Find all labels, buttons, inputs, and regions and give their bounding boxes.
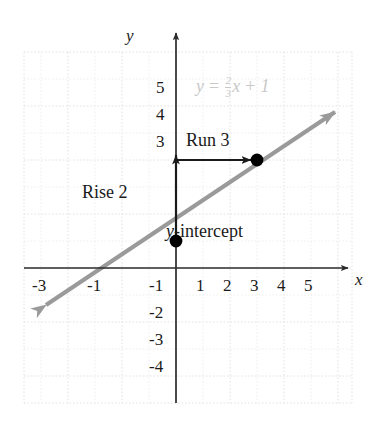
y-tick-neg2: -2	[149, 304, 163, 321]
line-graph-figure	[0, 0, 388, 427]
equation-denominator: 3	[225, 87, 231, 100]
y-tick-neg3: -3	[149, 331, 163, 348]
x-tick-5: 5	[304, 277, 313, 294]
y-tick-neg4: -4	[149, 358, 163, 375]
y-intercept-label-italic: y	[166, 221, 174, 241]
x-tick-4: 4	[277, 277, 286, 294]
equation-plus: +	[245, 76, 255, 96]
run-label: Run 3	[186, 131, 230, 149]
x-axis-label: x	[355, 271, 363, 288]
x-tick-1: 1	[196, 277, 205, 294]
y-intercept-label-rest: -intercept	[174, 221, 243, 241]
y-intercept-label: y-intercept	[166, 222, 243, 240]
equation-numerator: 2	[225, 75, 231, 87]
x-tick-neg1: -1	[87, 277, 101, 294]
y-tick-3: 3	[156, 133, 165, 150]
equation-lhs: y	[196, 76, 204, 96]
equation-fraction: 2 3	[225, 75, 231, 99]
y-tick-5: 5	[156, 79, 165, 96]
point-rise-run	[251, 154, 264, 167]
equation-equals: =	[209, 76, 219, 96]
rise-label: Rise 2	[82, 183, 128, 201]
equation-variable: x	[232, 76, 240, 96]
x-tick-neg3: -3	[32, 277, 46, 294]
equation-constant: 1	[261, 76, 270, 96]
y-tick-4: 4	[156, 106, 165, 123]
equation-label: y = 2 3 x + 1	[196, 75, 270, 99]
y-tick-neg1: -1	[149, 277, 163, 294]
x-tick-3: 3	[250, 277, 259, 294]
y-axis-label: y	[126, 27, 134, 44]
x-tick-2: 2	[223, 277, 232, 294]
